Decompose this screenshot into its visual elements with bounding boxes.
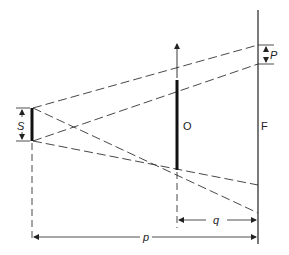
ray-lines bbox=[33, 45, 258, 213]
ray-bottom-lower bbox=[33, 141, 258, 185]
p-label: p bbox=[142, 231, 149, 243]
geometric-unsharpness-diagram: S O F P q p bbox=[0, 0, 289, 255]
object-label: O bbox=[183, 120, 192, 132]
film-label: F bbox=[261, 120, 268, 132]
q-label: q bbox=[213, 214, 220, 226]
ray-top-lower bbox=[33, 108, 258, 213]
extension-lines bbox=[32, 143, 177, 242]
ray-bottom-upper bbox=[33, 64, 258, 141]
penumbra-label: P bbox=[270, 49, 278, 61]
source-label: S bbox=[17, 120, 25, 132]
ray-top-upper bbox=[33, 45, 258, 108]
